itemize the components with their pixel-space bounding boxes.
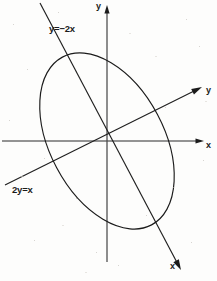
equation-label-x-prime: y=−2x bbox=[49, 24, 75, 34]
x-axis-arrowhead bbox=[196, 138, 205, 143]
y-axis-label: y bbox=[96, 2, 101, 11]
geometry-figure-svg bbox=[0, 0, 217, 281]
figure-container: y x y x y=−2x 2y=x bbox=[0, 0, 217, 281]
equation-label-y-prime: 2y=x bbox=[12, 185, 33, 195]
y-prime-axis-label: y bbox=[206, 86, 211, 95]
y-axis-arrowhead bbox=[104, 5, 109, 14]
y-prime-axis-group bbox=[5, 87, 202, 185]
x-prime-axis-group bbox=[40, 3, 181, 270]
y-prime-axis-arrowhead bbox=[191, 87, 202, 94]
x-axis-label: x bbox=[206, 141, 211, 150]
x-axis-group bbox=[2, 138, 204, 143]
x-prime-axis-label: x bbox=[170, 262, 175, 271]
